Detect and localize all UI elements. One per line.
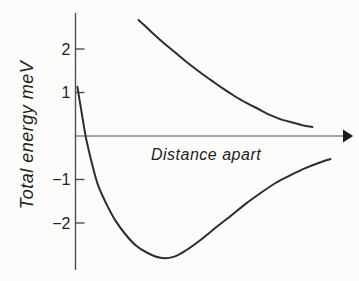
x-axis-arrowhead-icon xyxy=(343,130,353,143)
y-tick-label: 2 xyxy=(62,41,71,58)
y-tick-label: −1 xyxy=(52,171,70,188)
energy-chart-plot: 21−1−2 xyxy=(0,0,359,281)
x-axis-label: Distance apart xyxy=(151,146,261,164)
y-tick-label: 1 xyxy=(62,84,71,101)
y-tick-label: −2 xyxy=(52,215,70,232)
lower-energy-curve xyxy=(77,87,330,258)
upper-energy-curve xyxy=(139,20,313,127)
energy-distance-figure: Total energy meV 21−1−2 Distance apart xyxy=(0,0,359,281)
